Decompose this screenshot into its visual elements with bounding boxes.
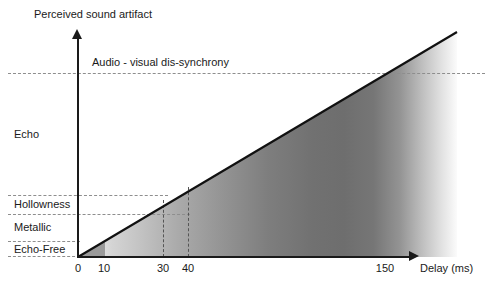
dashed-line-baseline: [8, 256, 80, 257]
x-axis: [78, 256, 411, 258]
x-axis-title: Delay (ms): [420, 262, 473, 275]
dashed-line-30ms: [163, 200, 164, 257]
x-tick-10: 10: [94, 262, 114, 274]
x-tick-40: 40: [178, 262, 198, 274]
region-label-echo: Echo: [14, 128, 39, 141]
region-label-echo-free: Echo-Free: [14, 243, 65, 256]
region-label-metallic: Metallic: [14, 221, 51, 234]
region-label-hollowness: Hollowness: [14, 198, 70, 211]
y-axis-title: Perceived sound artifact: [34, 8, 152, 21]
annotation-dis-synchrony: Audio - visual dis-synchrony: [92, 56, 229, 69]
dashed-line-40ms: [188, 187, 189, 257]
x-tick-150: 150: [372, 262, 398, 274]
y-axis-arrow-icon: [72, 29, 82, 39]
x-axis-arrow-icon: [409, 251, 419, 261]
dashed-line-hollowness-upper: [8, 195, 168, 196]
perceived-sound-artifact-chart: Perceived sound artifact Delay (ms) Audi…: [0, 0, 485, 294]
y-axis: [77, 37, 79, 258]
x-tick-0: 0: [70, 262, 86, 274]
dashed-line-echo-free-upper: [8, 241, 80, 242]
x-tick-30: 30: [153, 262, 173, 274]
dashed-line-dis-synchrony: [8, 73, 485, 74]
